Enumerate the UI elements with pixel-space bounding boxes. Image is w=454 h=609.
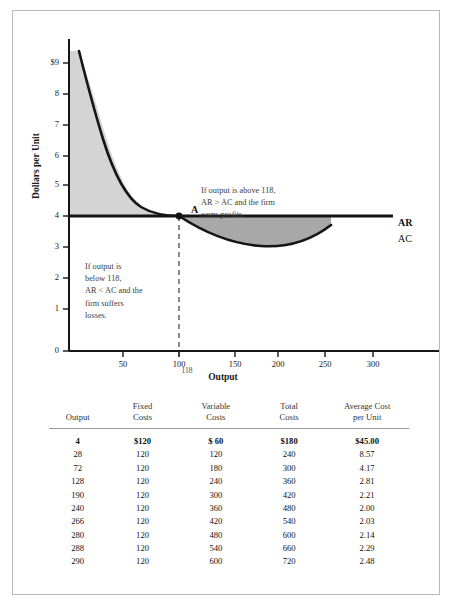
cell-variable-costs: 300 — [179, 488, 253, 501]
cell-average-cost: 2.48 — [325, 555, 409, 568]
cell-output: 288 — [49, 541, 106, 554]
column-header-avg-line2: per Unit — [329, 412, 405, 423]
cell-fixed-costs: 120 — [106, 541, 178, 554]
table-row: 2401203604802.00 — [49, 501, 409, 514]
cell-output: 190 — [49, 488, 106, 501]
cell-fixed-costs: 120 — [106, 515, 178, 528]
table-row: 2881205406602.29 — [49, 541, 409, 554]
y-tick-label-0: 0 — [35, 345, 59, 355]
cell-variable-costs: 180 — [179, 461, 253, 474]
cell-average-cost: 2.03 — [325, 515, 409, 528]
table-row: 2901206007202.48 — [49, 555, 409, 568]
column-header-variable-costs: Variable Costs — [179, 399, 253, 429]
x-tick-label-300: 300 — [358, 359, 388, 369]
table-row: 1901203004202.21 — [49, 488, 409, 501]
column-header-fixed-line2: Costs — [110, 412, 174, 423]
column-header-total-costs: Total Costs — [253, 399, 325, 429]
cell-average-cost: $45.00 — [325, 429, 409, 448]
cell-total-costs: 360 — [253, 474, 325, 487]
cell-total-costs: 240 — [253, 448, 325, 461]
cell-average-cost: 4.17 — [325, 461, 409, 474]
cell-output: 290 — [49, 555, 106, 568]
point-a-marker — [176, 213, 183, 220]
cell-output: 266 — [49, 515, 106, 528]
table-row: 281201202408.57 — [49, 448, 409, 461]
cell-output: 280 — [49, 528, 106, 541]
column-header-fixed-costs: Fixed Costs — [106, 399, 178, 429]
table-row: 2801204806002.14 — [49, 528, 409, 541]
column-header-variable-line2: Costs — [183, 412, 249, 423]
cell-output: 128 — [49, 474, 106, 487]
cost-table: Output Fixed Costs Variable Costs Total … — [49, 399, 409, 568]
column-header-total-line2: Costs — [257, 412, 321, 423]
cost-table-header: Output Fixed Costs Variable Costs Total … — [49, 399, 409, 429]
column-header-avg-line1: Average Cost — [329, 401, 405, 412]
cell-fixed-costs: 120 — [106, 448, 178, 461]
cell-variable-costs: 600 — [179, 555, 253, 568]
cell-total-costs: 420 — [253, 488, 325, 501]
figure-frame: Dollars per Unit Output $9 8 7 6 5 4 3 2… — [12, 10, 440, 595]
table-row: 4$120$ 60$180$45.00 — [49, 429, 409, 448]
x-tick-label-200: 200 — [263, 359, 293, 369]
cell-variable-costs: 540 — [179, 541, 253, 554]
x-tick-label-50: 50 — [108, 359, 138, 369]
y-tick-label-6: 6 — [35, 150, 59, 160]
cell-total-costs: 600 — [253, 528, 325, 541]
cell-variable-costs: 480 — [179, 528, 253, 541]
y-axis-title: Dollars per Unit — [31, 121, 41, 211]
table-row: 721201803004.17 — [49, 461, 409, 474]
cell-average-cost: 2.81 — [325, 474, 409, 487]
y-tick-label-4: 4 — [35, 210, 59, 220]
cell-fixed-costs: 120 — [106, 555, 178, 568]
cell-average-cost: 2.14 — [325, 528, 409, 541]
x-tick-label-118: 118 — [172, 366, 202, 375]
cell-average-cost: 2.00 — [325, 501, 409, 514]
table-row: 1281202403602.81 — [49, 474, 409, 487]
cell-output: 28 — [49, 448, 106, 461]
y-tick-label-1: 1 — [35, 303, 59, 313]
cell-total-costs: 660 — [253, 541, 325, 554]
chart-area: Dollars per Unit Output $9 8 7 6 5 4 3 2… — [13, 11, 441, 391]
cell-output: 4 — [49, 429, 106, 448]
cell-variable-costs: $ 60 — [179, 429, 253, 448]
column-header-average-cost: Average Cost per Unit — [325, 399, 409, 429]
x-tick-label-250: 250 — [310, 359, 340, 369]
cell-fixed-costs: 120 — [106, 461, 178, 474]
ar-curve-label: AR — [398, 217, 412, 228]
cell-fixed-costs: 120 — [106, 474, 178, 487]
table-row: 2661204205402.03 — [49, 515, 409, 528]
cost-table-body: 4$120$ 60$180$45.00281201202408.57721201… — [49, 429, 409, 569]
column-header-output-line2: Output — [53, 412, 102, 423]
cell-fixed-costs: 120 — [106, 488, 178, 501]
cell-output: 72 — [49, 461, 106, 474]
table-header-row: Output Fixed Costs Variable Costs Total … — [49, 399, 409, 429]
cell-total-costs: 540 — [253, 515, 325, 528]
ac-curve-label: AC — [398, 233, 412, 244]
cell-variable-costs: 360 — [179, 501, 253, 514]
cell-variable-costs: 420 — [179, 515, 253, 528]
cell-fixed-costs: $120 — [106, 429, 178, 448]
column-header-output: Output — [49, 399, 106, 429]
cell-average-cost: 2.29 — [325, 541, 409, 554]
column-header-fixed-line1: Fixed — [110, 401, 174, 412]
cell-total-costs: 720 — [253, 555, 325, 568]
cell-total-costs: 300 — [253, 461, 325, 474]
y-tick-label-3: 3 — [35, 241, 59, 251]
cell-total-costs: 480 — [253, 501, 325, 514]
cell-average-cost: 8.57 — [325, 448, 409, 461]
cell-variable-costs: 240 — [179, 474, 253, 487]
cell-total-costs: $180 — [253, 429, 325, 448]
cell-fixed-costs: 120 — [106, 501, 178, 514]
cell-output: 240 — [49, 501, 106, 514]
annotation-profit-note: If output is above 118, AR > AC and the … — [201, 185, 341, 222]
column-header-variable-line1: Variable — [183, 401, 249, 412]
y-tick-label-8: 8 — [35, 88, 59, 98]
cell-average-cost: 2.21 — [325, 488, 409, 501]
y-tick-label-5: 5 — [35, 179, 59, 189]
cell-variable-costs: 120 — [179, 448, 253, 461]
column-header-total-line1: Total — [257, 401, 321, 412]
cell-fixed-costs: 120 — [106, 528, 178, 541]
y-tick-label-7: 7 — [35, 119, 59, 129]
y-tick-label-2: 2 — [35, 272, 59, 282]
annotation-loss-note: If output is below 118, AR < AC and the … — [85, 261, 195, 322]
